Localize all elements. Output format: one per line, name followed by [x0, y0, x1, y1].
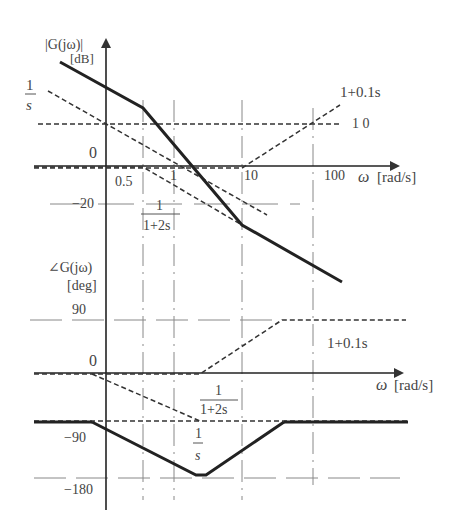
phase-ylabel: ∠G(jω): [48, 260, 93, 276]
phase-xunit: [rad/s]: [394, 377, 433, 393]
phase-xlabel: ω: [376, 376, 387, 393]
gain-label: 1 0: [352, 116, 370, 131]
phase-integrator-label-num: 1: [195, 426, 202, 441]
phase-integrator-label-den: s: [195, 448, 201, 463]
phase-lag-label-den: 1+2s: [200, 402, 227, 417]
x-tick-1: 1: [170, 168, 177, 183]
mag-xunit: [rad/s]: [377, 169, 416, 185]
mag-xlabel: ω: [358, 168, 369, 185]
lag-label-num: 1: [156, 198, 163, 213]
bode-diagram: |G(jω)| [dB] 1 s 0 −20 0.5 1 10 100 ω [r…: [0, 0, 474, 530]
phase-tick-minus180: −180: [64, 482, 93, 497]
phase-lead-label: 1+0.1s: [327, 335, 368, 351]
phase-tick-minus90: −90: [64, 430, 86, 445]
phase-tick-90: 90: [72, 302, 86, 317]
integrator-label-num: 1: [26, 77, 34, 93]
x-tick-100: 100: [324, 168, 345, 183]
lag-label-den: 1+2s: [143, 218, 170, 233]
phase-tick-0: 0: [89, 352, 97, 369]
phase-total-curve: [34, 422, 408, 475]
magnitude-yunit: [dB]: [70, 51, 94, 66]
x-tick-0.5: 0.5: [115, 174, 133, 189]
x-tick-10: 10: [244, 168, 258, 183]
phase-yunit: [deg]: [67, 278, 97, 293]
lead-label: 1+0.1s: [340, 84, 381, 100]
mag-tick-0: 0: [89, 144, 97, 161]
mag-tick-minus20: −20: [72, 196, 94, 211]
integrator-label-den: s: [26, 97, 32, 113]
magnitude-total-curve: [60, 62, 342, 282]
phase-lag-label-num: 1: [215, 383, 222, 398]
